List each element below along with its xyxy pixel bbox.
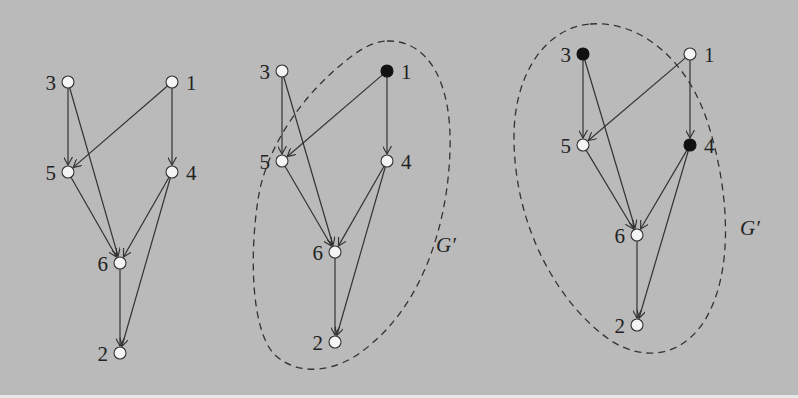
labels-layer: 315462315462G′315462G′	[46, 43, 761, 366]
edge-4-to-6	[641, 150, 687, 229]
edge-1-to-5	[287, 75, 382, 157]
edges-layer	[68, 58, 690, 346]
node-label: 5	[561, 134, 572, 158]
edge-4-to-6	[123, 177, 169, 257]
node-4-filled	[684, 139, 696, 151]
figure-canvas: 315462315462G′315462G′	[0, 0, 798, 395]
node-1	[684, 48, 696, 60]
dag-figure: 315462315462G′315462G′	[0, 0, 798, 395]
edge-4-to-2	[337, 167, 385, 336]
node-5	[62, 166, 74, 178]
node-1	[166, 76, 178, 88]
node-label: 6	[98, 252, 109, 276]
subgraph-label: G′	[436, 233, 456, 257]
node-2	[631, 319, 643, 331]
node-1-filled	[381, 65, 393, 77]
edge-3-to-6	[70, 88, 118, 257]
edge-4-to-6	[338, 166, 384, 246]
node-label: 2	[615, 314, 626, 338]
node-label: 1	[186, 71, 197, 95]
edge-3-to-6	[284, 77, 333, 246]
node-label: 1	[704, 43, 715, 67]
node-label: 3	[46, 71, 57, 95]
node-label: 4	[704, 134, 715, 158]
node-label: 4	[401, 150, 412, 174]
subgraph-region-c	[514, 24, 726, 353]
subgraph-region-b	[253, 41, 450, 369]
edge-5-to-6	[586, 150, 633, 229]
edge-4-to-2	[639, 151, 688, 319]
node-3	[62, 76, 74, 88]
node-6	[631, 229, 643, 241]
node-label: 2	[98, 342, 109, 366]
node-label: 5	[46, 161, 57, 185]
node-4	[166, 166, 178, 178]
node-label: 3	[561, 43, 572, 67]
edge-5-to-6	[71, 177, 117, 257]
node-6	[114, 257, 126, 269]
subgraph-label: G′	[740, 216, 760, 240]
node-label: 5	[260, 150, 271, 174]
node-5	[577, 139, 589, 151]
node-label: 6	[313, 241, 324, 265]
node-4	[381, 155, 393, 167]
node-label: 6	[615, 224, 626, 248]
node-label: 3	[260, 60, 271, 84]
node-label: 2	[313, 331, 324, 355]
node-5	[276, 155, 288, 167]
node-2	[114, 347, 126, 359]
edge-3-to-6	[585, 60, 635, 229]
edge-1-to-5	[73, 86, 167, 167]
node-3-filled	[577, 48, 589, 60]
node-6	[329, 246, 341, 258]
edge-1-to-5	[588, 58, 685, 141]
node-label: 4	[186, 161, 197, 185]
edge-5-to-6	[285, 166, 331, 246]
node-2	[329, 336, 341, 348]
node-label: 1	[401, 60, 412, 84]
edge-4-to-2	[122, 178, 170, 347]
node-3	[276, 65, 288, 77]
